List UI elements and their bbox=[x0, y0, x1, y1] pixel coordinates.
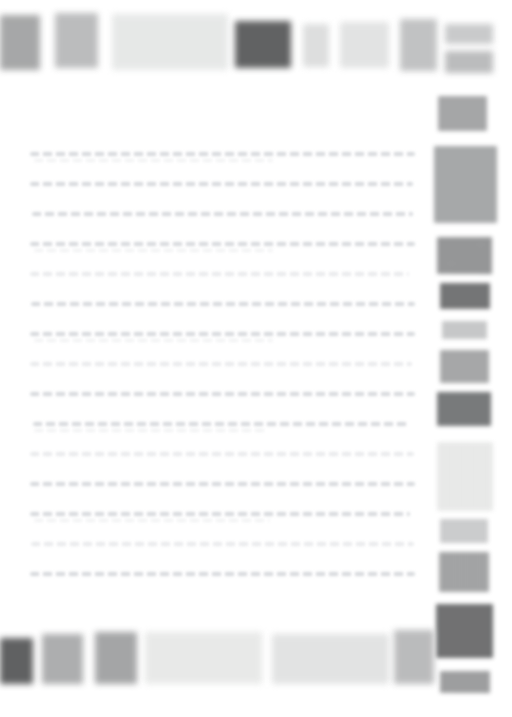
text-line bbox=[30, 362, 412, 366]
text-line-ghost bbox=[34, 159, 273, 162]
sidebar-item-2[interactable] bbox=[437, 237, 492, 274]
text-line bbox=[30, 572, 415, 576]
text-line bbox=[32, 212, 413, 216]
sidebar-item-3[interactable] bbox=[440, 283, 490, 309]
bottom-toolbar-item-1[interactable] bbox=[42, 634, 83, 684]
sidebar-item-10[interactable] bbox=[436, 604, 493, 658]
text-line-ghost bbox=[34, 339, 273, 342]
sidebar-item-4[interactable] bbox=[442, 321, 487, 339]
text-line-ghost bbox=[34, 249, 273, 252]
sidebar-item-11[interactable] bbox=[440, 671, 490, 693]
text-line bbox=[31, 542, 414, 546]
text-line-ghost bbox=[34, 519, 270, 522]
bottom-toolbar-item-4[interactable] bbox=[272, 634, 389, 684]
bottom-toolbar-item-3[interactable] bbox=[145, 632, 262, 684]
sidebar-item-0[interactable] bbox=[438, 96, 487, 131]
text-line bbox=[30, 392, 415, 396]
sidebar-item-5[interactable] bbox=[440, 350, 489, 383]
text-line bbox=[30, 272, 409, 276]
text-line bbox=[30, 242, 415, 246]
sidebar-item-8[interactable] bbox=[440, 519, 488, 543]
text-line-ghost bbox=[34, 429, 268, 432]
text-line bbox=[31, 302, 415, 306]
text-line bbox=[33, 422, 410, 426]
bottom-toolbar-item-2[interactable] bbox=[95, 632, 137, 684]
text-line bbox=[30, 482, 415, 486]
sidebar-item-7[interactable] bbox=[437, 442, 493, 511]
bottom-toolbar-item-0[interactable] bbox=[0, 638, 33, 684]
screen-root bbox=[0, 0, 512, 717]
bottom-toolbar-item-5[interactable] bbox=[394, 630, 434, 684]
sidebar-item-6[interactable] bbox=[437, 392, 491, 426]
text-line bbox=[30, 152, 415, 156]
text-line bbox=[30, 332, 415, 336]
sidebar-item-1[interactable] bbox=[434, 146, 497, 223]
text-line bbox=[30, 512, 410, 516]
text-line bbox=[30, 182, 413, 186]
sidebar-item-9[interactable] bbox=[439, 552, 489, 592]
text-line bbox=[30, 452, 414, 456]
